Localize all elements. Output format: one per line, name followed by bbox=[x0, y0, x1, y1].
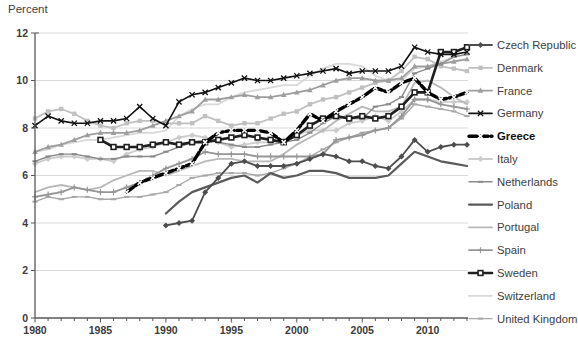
data-point-marker bbox=[255, 135, 260, 140]
legend-item-poland: Poland bbox=[469, 199, 532, 211]
data-point-marker bbox=[412, 72, 417, 74]
data-point-marker bbox=[98, 198, 103, 200]
data-point-marker bbox=[373, 116, 378, 121]
data-point-marker bbox=[84, 187, 90, 193]
chart-container: Percent 02468101219801985199019952000200… bbox=[0, 0, 578, 353]
data-point-marker bbox=[321, 97, 325, 101]
data-point-marker bbox=[320, 148, 325, 150]
data-point-marker bbox=[111, 158, 116, 160]
data-point-marker bbox=[464, 115, 469, 117]
y-tick-label: 4 bbox=[22, 217, 28, 229]
legend-label: United Kingdom bbox=[497, 313, 577, 325]
data-point-marker bbox=[190, 121, 194, 125]
x-tick-label: 1990 bbox=[154, 324, 178, 336]
legend-item-greece: Greece bbox=[469, 130, 535, 142]
data-point-marker bbox=[268, 144, 273, 146]
data-point-marker bbox=[412, 55, 416, 59]
data-point-marker bbox=[255, 121, 259, 125]
data-point-marker bbox=[359, 158, 365, 164]
y-tick-label: 6 bbox=[22, 169, 28, 181]
data-point-marker bbox=[412, 103, 417, 105]
data-point-marker bbox=[176, 161, 182, 167]
y-tick-label: 0 bbox=[22, 312, 28, 324]
data-point-marker bbox=[72, 112, 76, 116]
data-point-marker bbox=[98, 158, 103, 160]
series-czech-republic bbox=[163, 137, 470, 229]
data-point-marker bbox=[85, 196, 90, 198]
data-point-marker bbox=[425, 106, 430, 108]
data-point-marker bbox=[412, 90, 417, 95]
data-point-marker bbox=[111, 145, 116, 150]
legend-item-spain: Spain bbox=[469, 244, 526, 256]
legend-label: Greece bbox=[497, 130, 535, 142]
data-point-marker bbox=[307, 123, 312, 128]
data-point-marker bbox=[242, 172, 247, 174]
data-point-marker bbox=[138, 119, 142, 123]
data-point-marker bbox=[241, 151, 247, 157]
x-tick-label: 2010 bbox=[416, 324, 440, 336]
data-point-marker bbox=[71, 184, 77, 190]
data-point-marker bbox=[452, 66, 456, 70]
data-point-marker bbox=[137, 196, 142, 198]
data-point-marker bbox=[373, 106, 378, 108]
data-point-marker bbox=[294, 139, 299, 141]
data-point-marker bbox=[137, 145, 142, 150]
data-point-marker bbox=[451, 110, 456, 112]
y-tick-label: 12 bbox=[16, 27, 28, 39]
data-point-marker bbox=[294, 161, 300, 167]
data-point-marker bbox=[189, 177, 194, 179]
data-point-marker bbox=[229, 123, 233, 127]
data-point-marker bbox=[386, 103, 391, 105]
legend-label: Netherlands bbox=[497, 176, 558, 188]
data-point-marker bbox=[294, 154, 300, 160]
y-tick-label: 2 bbox=[22, 264, 28, 276]
data-point-marker bbox=[216, 172, 221, 174]
data-point-marker bbox=[255, 163, 261, 169]
data-point-marker bbox=[176, 135, 182, 141]
data-point-marker bbox=[294, 133, 299, 138]
data-point-marker bbox=[229, 135, 234, 140]
data-point-marker bbox=[46, 109, 50, 113]
data-point-marker bbox=[150, 194, 155, 196]
x-tick-label: 2005 bbox=[351, 324, 375, 336]
data-point-marker bbox=[360, 85, 364, 89]
legend-label: Sweden bbox=[497, 267, 538, 279]
data-point-marker bbox=[72, 196, 77, 198]
series-spain bbox=[32, 97, 470, 200]
data-point-marker bbox=[58, 189, 64, 195]
data-point-marker bbox=[215, 151, 221, 157]
data-point-marker bbox=[282, 112, 286, 116]
legend-item-france: France bbox=[469, 85, 532, 97]
data-point-marker bbox=[150, 156, 155, 158]
data-point-marker bbox=[59, 198, 64, 200]
legend-item-italy: Italy bbox=[469, 153, 518, 165]
data-point-marker bbox=[307, 132, 312, 134]
data-point-marker bbox=[59, 107, 63, 111]
data-point-marker bbox=[255, 146, 260, 148]
legend-label: Germany bbox=[497, 107, 544, 119]
legend-item-netherlands: Netherlands bbox=[469, 176, 558, 188]
legend-label: Spain bbox=[497, 244, 526, 256]
data-point-marker bbox=[372, 163, 378, 169]
data-point-marker bbox=[242, 121, 246, 125]
data-point-marker bbox=[464, 106, 470, 112]
data-point-marker bbox=[124, 196, 129, 198]
data-point-marker bbox=[98, 137, 103, 142]
data-point-marker bbox=[478, 271, 483, 276]
legend-label: France bbox=[497, 85, 532, 97]
data-point-marker bbox=[203, 175, 208, 177]
data-point-marker bbox=[228, 151, 234, 157]
y-axis-title: Percent bbox=[8, 3, 48, 15]
data-point-marker bbox=[478, 247, 484, 253]
data-point-marker bbox=[150, 142, 155, 147]
x-tick-label: 2000 bbox=[285, 324, 309, 336]
data-point-marker bbox=[425, 97, 431, 103]
data-point-marker bbox=[242, 146, 247, 148]
data-point-marker bbox=[399, 69, 403, 73]
data-point-marker bbox=[190, 140, 195, 145]
data-point-marker bbox=[464, 142, 470, 148]
axis-tick-labels: 0246810121980198519901995200020052010 bbox=[16, 27, 439, 336]
data-point-marker bbox=[478, 42, 484, 48]
data-point-marker bbox=[268, 154, 274, 160]
data-point-marker bbox=[478, 156, 484, 162]
